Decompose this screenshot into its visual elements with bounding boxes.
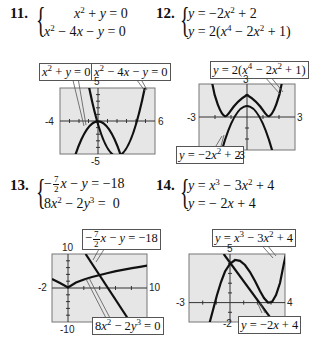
graph-13-label-1: −72x − y = −18 [82, 229, 161, 250]
graph-13-ymin: -10 [60, 324, 74, 335]
graph-13-xmax: 10 [149, 282, 160, 293]
graph-11-label-2: x2 − 4x − y = 0 [91, 63, 171, 81]
graph-14-xmax: 4 [287, 297, 293, 308]
graph-12-label-1: y = 2(x4 − 2x2 + 1) [210, 61, 309, 79]
graph-12-ymin: -3 [236, 150, 245, 161]
graph-11-label-1: x2 + y = 0 [39, 63, 94, 81]
graph-12-xmax: 3 [297, 112, 303, 123]
graph-13-ymax: 10 [62, 242, 73, 253]
graph-13-xmin: -2 [38, 282, 47, 293]
graph-14-label-2: y = −2x + 4 [238, 316, 301, 334]
graph-14-ymax: 5 [227, 243, 233, 254]
graph-12-label-2: y = −2x2 + 2 [176, 146, 244, 164]
graph-11-ymax: 5 [94, 76, 100, 87]
graph-11 [60, 72, 155, 159]
graph-11-ymin: -5 [91, 156, 100, 167]
graph-11-xmin: -4 [45, 116, 54, 127]
graph-14-label-1: y = x3 − 3x2 + 4 [212, 229, 296, 247]
graph-11-xmax: 6 [158, 116, 164, 127]
graph-14-ymin: -2 [223, 318, 232, 329]
graph-12-ymax: 3 [243, 74, 249, 85]
graph-12-xmin: -3 [187, 112, 196, 123]
graph-14-xmin: -3 [176, 297, 185, 308]
graph-14 [189, 240, 287, 326]
graph-13-label-2: 8x2 − 2y3 = 0 [92, 317, 164, 335]
